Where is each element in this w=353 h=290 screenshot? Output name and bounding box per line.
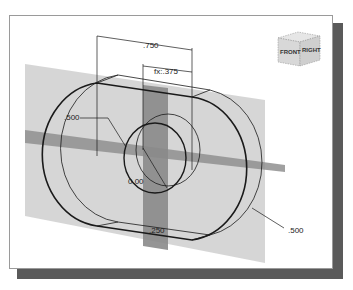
dim-label-750[interactable]: .750 [143, 41, 159, 50]
dim-label-375[interactable]: fx:.375 [154, 67, 179, 76]
dim-label-250[interactable]: .250 [149, 226, 165, 235]
dim-label-origin[interactable]: 0.00 [128, 177, 144, 186]
view-cube[interactable]: FRONT RIGHT [278, 32, 321, 66]
cad-viewport[interactable]: .750 fx:.375 .500 0.00 .250 .500 FRONT R… [0, 0, 353, 290]
dim-label-500-right[interactable]: .500 [288, 226, 304, 235]
cube-face-front[interactable]: FRONT [280, 49, 301, 55]
cube-face-right[interactable]: RIGHT [302, 47, 321, 53]
dim-label-500-left[interactable]: .500 [64, 113, 80, 122]
